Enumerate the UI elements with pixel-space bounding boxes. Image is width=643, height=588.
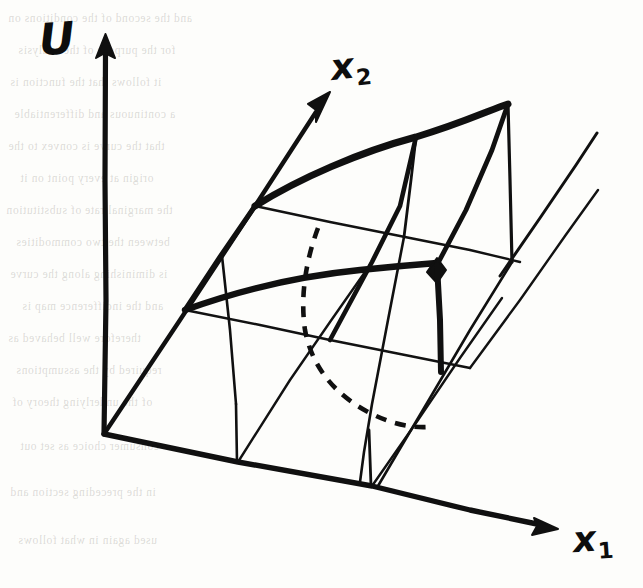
plane-edge-extension-right: [500, 133, 597, 276]
axis-label-u-text: U: [37, 12, 76, 65]
grid-line-x2-right: [372, 298, 502, 486]
drop-line-left-upper: [222, 256, 236, 404]
surface-curves: [185, 104, 597, 486]
drop-line-right: [369, 430, 371, 486]
figure-canvas: and the second of the conditions on for …: [0, 0, 643, 588]
axis-label-x2-subscript: 2: [355, 63, 373, 90]
dashed-hidden-curve: [303, 228, 428, 427]
axis-label-u: U: [38, 16, 77, 62]
axis-label-x2-text: x: [329, 45, 356, 88]
axis-label-x1-text: x: [571, 518, 597, 561]
hidden-contour-group: [303, 228, 428, 427]
floor-generator-right: [378, 262, 512, 486]
base-plane-grid: [185, 190, 598, 486]
grid-line-plane-right-edge: [470, 190, 598, 368]
drop-line-left: [236, 404, 237, 462]
x1-axis-arrowhead: [532, 518, 558, 535]
u-axis-line: [104, 52, 106, 434]
axis-label-x1-subscript: 1: [597, 537, 614, 564]
sketch-svg: [0, 0, 643, 588]
surface-ridge-upper: [255, 104, 508, 206]
lower-ridge-vertical: [437, 265, 441, 372]
peak-vertical-drop: [508, 104, 512, 262]
axis-label-x2: x2: [329, 46, 373, 91]
x1-axis-line: [104, 434, 537, 524]
axis-label-x1: x1: [572, 520, 615, 564]
